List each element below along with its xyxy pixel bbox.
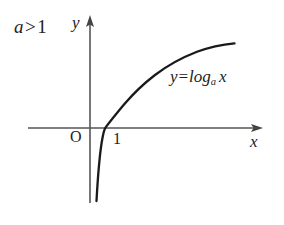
condition-value: 1 [37,16,47,37]
x-axis [28,124,263,132]
condition-label: a>1 [14,17,47,36]
log-function-figure: a>1 y x O 1 y=logax [0,0,284,225]
equation-variable: x [219,67,227,86]
x-tick-label-1: 1 [113,131,121,147]
equation-subscript: a [211,76,216,87]
equation-lhs: y=log [170,67,211,86]
curve-equation-label: y=logax [170,68,227,85]
x-axis-label: x [250,133,258,150]
condition-base: a [14,16,24,37]
y-axis [86,15,94,203]
origin-label: O [70,129,82,145]
y-axis-label: y [72,14,80,31]
condition-relation: > [24,16,37,37]
